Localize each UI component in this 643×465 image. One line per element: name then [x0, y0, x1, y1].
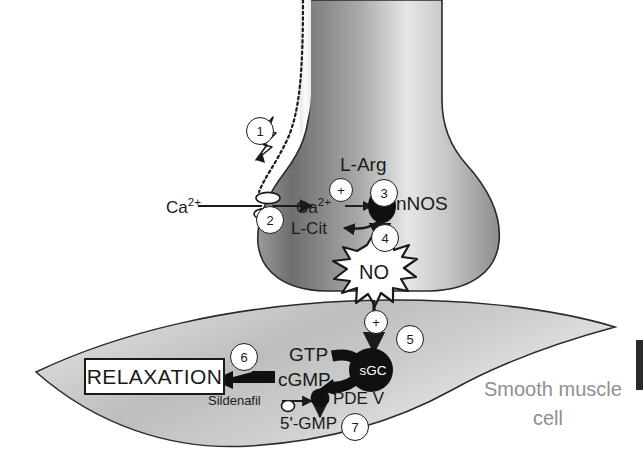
relaxation-arrow-tail: [252, 371, 275, 383]
step-marker-3[interactable]: 3: [370, 179, 398, 207]
sildenafil-inhibition-symbol: [282, 401, 295, 412]
l-citrulline-label: L-Cit: [291, 220, 327, 237]
diagram-root: Ca2+ Ca2+ L-Arg L-Cit nNOS NO sGC GTP cG…: [0, 0, 643, 465]
smooth-muscle-cell-label-line1: Smooth muscle: [484, 379, 622, 399]
step-marker-4[interactable]: 4: [371, 224, 399, 252]
no-label: NO: [344, 258, 404, 286]
nnos-activation-plus-sign: +: [329, 178, 353, 202]
relaxation-box: RELAXATION: [84, 358, 225, 395]
step-marker-2[interactable]: 2: [256, 206, 284, 234]
pdev-enzyme-icon: [311, 389, 330, 408]
step-marker-1[interactable]: 1: [246, 117, 274, 145]
step-marker-5[interactable]: 5: [396, 325, 424, 353]
l-arginine-label: L-Arg: [340, 155, 386, 174]
calcium-intracellular-label: Ca2+: [296, 197, 331, 216]
step-marker-6[interactable]: 6: [230, 343, 258, 371]
sgc-label: sGC: [353, 360, 393, 380]
cgmp-label: cGMP: [278, 370, 331, 389]
nnos-label: nNOS: [396, 194, 448, 213]
smooth-muscle-cell-label-line2: cell: [533, 408, 563, 428]
step-marker-7[interactable]: 7: [341, 413, 369, 441]
sildenafil-label: Sildenafil: [208, 394, 261, 407]
gtp-label: GTP: [289, 345, 328, 364]
gmp5-label: 5'-GMP: [280, 415, 337, 432]
pde-v-label: PDE V: [333, 390, 384, 407]
sgc-activation-plus-sign: +: [364, 310, 388, 334]
relaxation-label: RELAXATION: [87, 365, 222, 389]
calcium-extracellular-label: Ca2+: [166, 197, 201, 216]
page-edge-bar: [636, 340, 643, 390]
